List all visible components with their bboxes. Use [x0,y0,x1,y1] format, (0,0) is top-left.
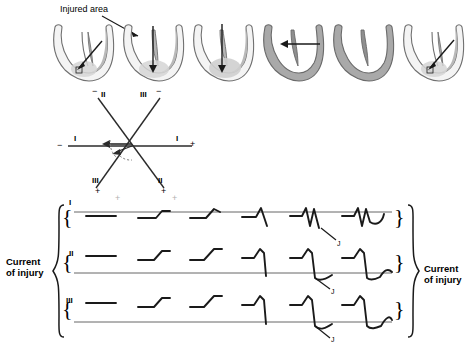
j-pointer-I [321,228,336,240]
lead-II-positive-sign: + [161,186,166,196]
lead-II-negative-label: II [101,90,105,99]
j-point-label-III: J [331,336,335,343]
injured-area-label: Injured area [60,4,108,14]
right-current-of-injury-label-line2: of injury [424,274,461,285]
lead-III-positive-sign: + [95,186,100,196]
left-current-of-injury-label-line1: Current [6,256,40,267]
ecg-trace-row-II [74,246,394,292]
heart-1 [54,25,114,81]
hexaxial-axis-diagram [60,88,220,196]
current-of-injury-figure: Injured area [0,0,473,346]
lead-III-positive-label: III [92,176,99,185]
ecg-row-close-brace-II: } [394,251,405,273]
ecg-row-brace-II: { [62,251,73,273]
ecg-row-brace-III: { [62,298,73,320]
heart-5 [334,25,394,81]
heart-2 [124,25,184,81]
lead-II-negative-sign: − [92,86,97,96]
heart-6 [404,25,464,81]
lead-I-negative-sign: − [57,140,62,150]
heart-3 [194,24,254,81]
ecg-plus-marker-1: + [115,193,120,203]
lead-III-negative-sign: − [156,86,161,96]
lead-I-positive-label: I [176,134,178,143]
lead-II-positive-label: II [158,176,162,185]
heart-diagram-row [48,22,468,84]
right-current-of-injury-label-line1: Current [424,263,458,274]
ecg-trace-row-I [74,204,394,246]
ecg-trace-row-III [74,293,394,341]
lead-III-negative-label: III [140,90,147,99]
heart-4 [264,25,324,81]
lead-I-positive-sign: + [190,139,195,149]
ecg-plus-marker-2: + [172,193,177,203]
left-current-of-injury-label-line2: of injury [6,267,43,278]
lead-I-negative-label: I [74,134,76,143]
ecg-row-close-brace-I: } [394,206,405,228]
right-outer-brace [406,204,420,338]
ecg-row-brace-I: { [62,206,73,228]
ecg-row-close-brace-III: } [394,298,405,320]
